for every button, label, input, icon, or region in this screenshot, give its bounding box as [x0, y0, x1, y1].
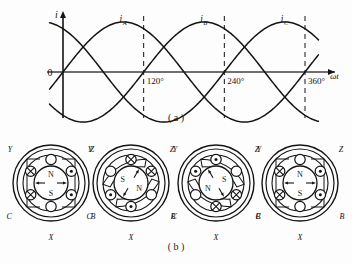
stator-slot-B: [315, 190, 325, 200]
stator-slot-A: [211, 154, 221, 164]
svg-text:iB: iB: [200, 14, 207, 26]
terminal-label-A: A: [297, 133, 303, 135]
caption-b: ( b ): [0, 241, 352, 252]
stator-slot-C: [105, 190, 115, 200]
rotating-field-diagram-row: NSAZBXCYNSAZBXCYNSAZBXCYNSAZBXCY: [0, 133, 352, 243]
stator-slot-X: [295, 201, 305, 211]
stator-slot-Y: [274, 166, 284, 176]
y-axis-label: i: [55, 9, 58, 20]
stator-slot-A: [126, 154, 136, 164]
terminal-label-C: C: [255, 212, 261, 221]
terminal-label-Y: Y: [8, 145, 14, 154]
slot-conductor-circle: [146, 190, 156, 200]
terminal-label-Y: Y: [173, 145, 179, 154]
stator-slot-B: [146, 190, 156, 200]
current-out-of-page-dot: [319, 193, 322, 196]
series-label-i_C: iC: [281, 14, 289, 26]
x-tick-label-360: 360°: [308, 76, 326, 86]
stator-slot-A: [295, 154, 305, 164]
stator-slot-Z: [146, 166, 156, 176]
stator-slot-B: [66, 190, 76, 200]
rotor-south-pole-label: S: [49, 189, 53, 198]
slot-conductor-circle: [105, 166, 115, 176]
rotor-diagram-stage-2: NSAZBXCY: [86, 133, 175, 242]
chart-series-labels: iAiBiC: [120, 14, 289, 26]
current-out-of-page-dot: [194, 170, 197, 173]
stator-slot-X: [126, 201, 136, 211]
current-out-of-page-dot: [70, 193, 73, 196]
rotor-body: [114, 166, 148, 200]
rotor-diagram-stage-4: NSAZBXCY: [255, 133, 344, 242]
rotor-north-pole-label: N: [205, 184, 211, 193]
origin-label: 0: [48, 67, 53, 78]
stator-slot-Y: [105, 166, 115, 176]
rotor-diagram-stage-1: NSAZBXCY: [6, 133, 95, 242]
slot-conductor-circle: [190, 190, 200, 200]
figure-root: i 0 ωt 120°240°360° iAiBiC ( a ) NSAZBXC…: [0, 0, 352, 263]
stator-slot-C: [190, 190, 200, 200]
x-tick-label-240: 240°: [227, 76, 245, 86]
terminal-label-Z: Z: [339, 145, 344, 154]
slot-conductor-circle: [295, 154, 305, 164]
terminal-label-C: C: [6, 212, 12, 221]
x-axis-label: ωt: [330, 71, 339, 81]
terminal-label-C: C: [171, 212, 177, 221]
slot-conductor-circle: [46, 201, 56, 211]
svg-text:iC: iC: [281, 14, 289, 26]
rotor-body: [199, 166, 233, 200]
stator-slot-B: [231, 190, 241, 200]
terminal-label-A: A: [128, 133, 134, 135]
current-out-of-page-dot: [130, 205, 133, 208]
stator-slot-C: [25, 190, 35, 200]
rotor-south-pole-label: S: [121, 175, 125, 184]
rotor-south-pole-label: S: [298, 189, 302, 198]
chart-axes: [47, 11, 335, 118]
stator-slot-Z: [231, 166, 241, 176]
terminal-label-C: C: [86, 212, 92, 221]
terminal-label-Y: Y: [257, 145, 263, 154]
stator-slot-Z: [66, 166, 76, 176]
x-tick-label-120: 120°: [147, 76, 165, 86]
slot-conductor-circle: [295, 201, 305, 211]
slot-conductor-circle: [46, 154, 56, 164]
current-out-of-page-dot: [215, 158, 218, 161]
stator-slot-X: [211, 201, 221, 211]
stator-slot-A: [46, 154, 56, 164]
rotor-north-pole-label: N: [297, 170, 303, 179]
terminal-label-A: A: [48, 133, 54, 135]
stator-slot-C: [274, 190, 284, 200]
svg-text:iA: iA: [120, 14, 127, 26]
terminal-label-B: B: [339, 212, 344, 221]
series-label-i_A: iA: [120, 14, 127, 26]
rotor-north-pole-label: N: [48, 170, 54, 179]
terminal-label-A: A: [213, 133, 219, 135]
current-out-of-page-dot: [109, 193, 112, 196]
chart-dashed-verticals: [144, 16, 305, 118]
stator-slot-X: [46, 201, 56, 211]
rotor-south-pole-label: S: [222, 175, 226, 184]
slot-conductor-circle: [231, 166, 241, 176]
current-out-of-page-dot: [319, 170, 322, 173]
stator-slot-Y: [190, 166, 200, 176]
current-out-of-page-dot: [70, 170, 73, 173]
stator-slot-Z: [315, 166, 325, 176]
series-label-i_B: iB: [200, 14, 207, 26]
caption-a: ( a ): [0, 112, 352, 123]
rotor-north-pole-label: N: [136, 184, 142, 193]
rotor-diagram-stage-3: NSAZBXCY: [171, 133, 260, 242]
stator-slot-Y: [25, 166, 35, 176]
